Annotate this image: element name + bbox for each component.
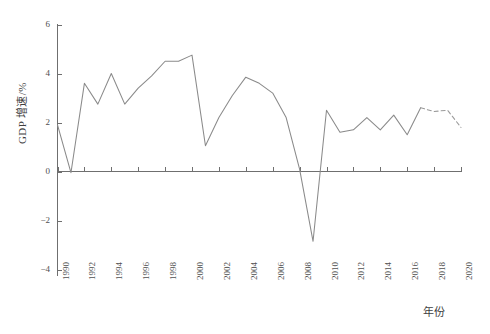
x-tick-label: 2018: [438, 262, 447, 280]
x-tick-label: 2016: [411, 262, 420, 280]
gdp-growth-line-chart: 6420−2−4 1990199219941996199820002002200…: [0, 0, 490, 334]
x-tick-label: 2010: [331, 262, 340, 280]
x-tick-label: 2006: [277, 262, 286, 280]
y-tick-label: 0: [24, 167, 50, 176]
x-axis-title: 年份: [423, 303, 446, 319]
series-line-forecast: [421, 108, 461, 128]
x-tick-label: 2004: [250, 262, 259, 280]
x-tick-label: 1994: [115, 262, 124, 280]
x-tick-label: 1998: [169, 262, 178, 280]
x-tick-label: 1992: [88, 262, 97, 280]
x-tick-label: 2014: [384, 262, 393, 280]
x-tick-label: 2020: [465, 262, 474, 280]
x-tick-marks: [58, 167, 462, 172]
y-tick-marks: [58, 25, 63, 270]
x-tick-label: 2008: [304, 262, 313, 280]
y-tick-label: −2: [24, 216, 50, 225]
x-tick-label: 2012: [357, 262, 366, 280]
y-tick-label: 6: [24, 20, 50, 29]
x-tick-label: 1996: [142, 262, 151, 280]
series-line-actual: [58, 55, 421, 241]
chart-canvas: [0, 0, 490, 334]
x-tick-label: 2002: [223, 262, 232, 280]
y-tick-label: −4: [24, 265, 50, 274]
x-tick-label: 1990: [62, 262, 71, 280]
x-tick-label: 2000: [196, 262, 205, 280]
y-axis-title: GDP 增速/%: [13, 34, 29, 144]
